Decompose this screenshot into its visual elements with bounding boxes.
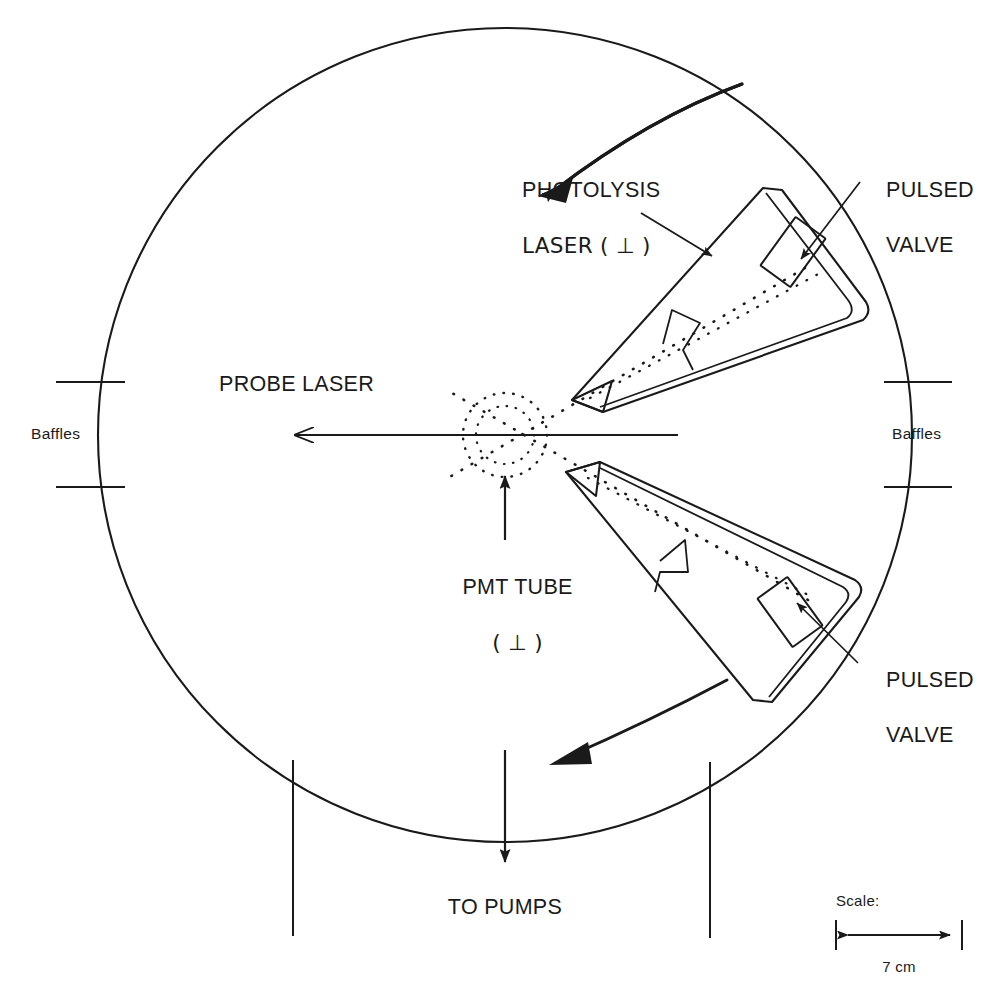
leader-pulsed-valve-bottom: [797, 603, 858, 663]
label-photolysis-laser-line1: PHOTOLYSIS: [522, 178, 660, 202]
label-photolysis-laser: PHOTOLYSIS LASER ( ⊥ ): [497, 149, 661, 288]
label-pulsed-valve-bottom-line1: PULSED: [886, 668, 974, 692]
label-pmt-tube-line1: PMT TUBE: [462, 575, 572, 599]
label-baffles-left: Baffles: [31, 424, 80, 444]
rotation-arrow-bottom: [549, 680, 727, 765]
valve-assembly-bottom: [566, 462, 861, 702]
label-pulsed-valve-top-line2: VALVE: [886, 233, 954, 257]
label-baffles-right: Baffles: [892, 424, 941, 444]
label-pmt-tube: PMT TUBE ( ⊥ ): [405, 546, 605, 685]
figure-root: PHOTOLYSIS LASER ( ⊥ ) PULSED VALVE PULS…: [0, 0, 998, 1008]
label-pulsed-valve-bottom-line2: VALVE: [886, 723, 954, 747]
label-photolysis-laser-line2: LASER ( ⊥ ): [522, 233, 651, 258]
label-scale-value: 7 cm: [836, 957, 962, 976]
label-scale-title: Scale:: [836, 891, 880, 910]
scale-bar: [836, 920, 962, 950]
label-pulsed-valve-top-line1: PULSED: [886, 178, 974, 202]
label-pulsed-valve-bottom: PULSED VALVE: [861, 639, 974, 777]
label-to-pumps: TO PUMPS: [405, 894, 605, 922]
label-pulsed-valve-top: PULSED VALVE: [861, 149, 974, 287]
label-probe-laser: PROBE LASER: [219, 371, 374, 399]
label-pmt-tube-line2: ( ⊥ ): [492, 630, 543, 655]
valve-body-bottom: [757, 577, 822, 647]
molecular-beam-upper: [448, 268, 805, 478]
